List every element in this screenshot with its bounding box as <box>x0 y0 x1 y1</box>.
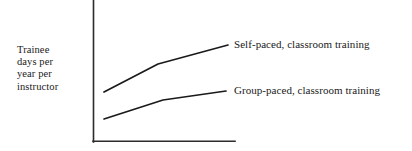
y-axis-label-line-4: instructor <box>17 81 89 93</box>
series-label-self-paced: Self-paced, classroom training <box>234 38 370 50</box>
y-axis-label-line-2: days per <box>17 56 89 68</box>
series-label-group-paced: Group-paced, classroom training <box>234 84 380 96</box>
y-axis-label-line-3: year per <box>17 68 89 80</box>
y-axis-label-line-1: Trainee <box>17 44 89 56</box>
chart-figure: Trainee days per year per instructor Sel… <box>0 0 412 151</box>
series-line-self-paced <box>104 45 228 92</box>
y-axis-label: Trainee days per year per instructor <box>17 44 89 93</box>
series-line-group-paced <box>104 91 226 119</box>
